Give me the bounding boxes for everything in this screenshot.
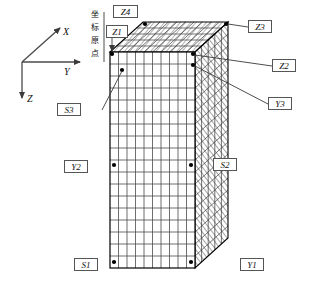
label-s2: S2 <box>213 158 237 171</box>
label-z2: Z2 <box>272 59 296 72</box>
point-z2 <box>191 52 195 56</box>
axis-y-label: Y <box>64 66 70 77</box>
point-y2 <box>112 163 116 167</box>
point-z4 <box>143 22 147 26</box>
label-y2: Y2 <box>64 160 88 173</box>
leader-z3 <box>228 24 248 27</box>
point-y1 <box>189 260 193 264</box>
point-y3 <box>191 63 195 67</box>
label-z1: Z1 <box>106 25 128 38</box>
point-s1 <box>112 260 116 264</box>
front-face <box>110 52 195 268</box>
label-s1: S1 <box>74 258 98 271</box>
point-z3 <box>224 22 228 26</box>
prism-mesh-graphic <box>0 0 312 292</box>
label-y3: Y3 <box>268 97 292 110</box>
label-z4: Z4 <box>113 5 138 18</box>
axis-x-label: X <box>63 26 69 37</box>
origin-note-char-1: 坐 <box>90 10 100 20</box>
origin-note-char-4: 点 <box>90 49 100 59</box>
label-z3: Z3 <box>248 20 272 33</box>
label-y1: Y1 <box>240 258 264 271</box>
coordinate-axes <box>22 28 80 98</box>
point-s2 <box>189 163 193 167</box>
origin-note-char-2: 标 <box>90 23 100 33</box>
diagram-canvas: X Y Z 坐 标 原 点 Z4 Z1 Z3 Z2 Y3 S3 Y2 S2 S1… <box>0 0 312 292</box>
origin-note-char-3: 原 <box>90 36 100 46</box>
axis-x <box>22 28 60 62</box>
axis-z-label: Z <box>27 93 33 104</box>
point-z1 <box>110 52 114 56</box>
label-s3: S3 <box>57 103 81 116</box>
